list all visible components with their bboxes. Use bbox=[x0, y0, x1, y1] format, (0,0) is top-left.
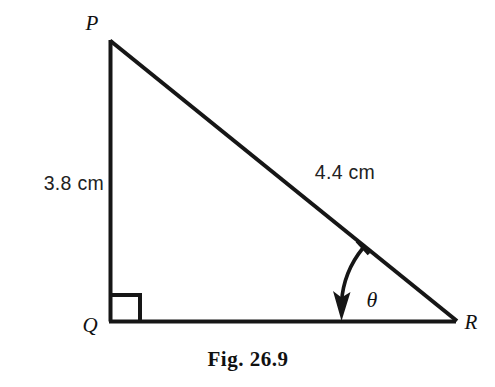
measurement-label-pr: 4.4 cm bbox=[315, 161, 375, 183]
vertex-label-r: R bbox=[464, 310, 478, 334]
triangle-side-pr bbox=[110, 41, 457, 322]
measurement-label-pq: 3.8 cm bbox=[44, 172, 104, 194]
angle-arc bbox=[342, 248, 364, 302]
vertex-label-p: P bbox=[85, 11, 99, 35]
right-angle-marker bbox=[112, 295, 140, 320]
angle-label-theta: θ bbox=[367, 287, 378, 312]
vertex-label-q: Q bbox=[82, 313, 97, 337]
figure-container: P Q R θ 3.8 cm 4.4 cm Fig. 26.9 bbox=[0, 0, 495, 387]
figure-caption: Fig. 26.9 bbox=[208, 347, 289, 371]
triangle-diagram: P Q R θ 3.8 cm 4.4 cm Fig. 26.9 bbox=[0, 0, 495, 387]
